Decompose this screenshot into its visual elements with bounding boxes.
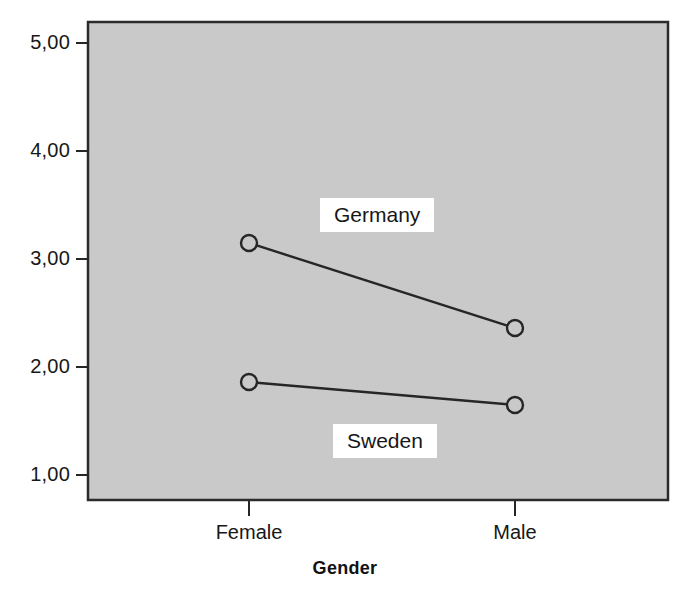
line-chart-figure: 5,00 4,00 3,00 2,00 1,00 Female Male Gen… [0,0,690,598]
series-germany-point-male [507,320,523,336]
y-tick-label-5: 5,00 [0,31,70,54]
y-tick-label-2: 2,00 [0,355,70,378]
y-tick-label-3: 3,00 [0,247,70,270]
series-sweden-point-male [507,397,523,413]
plot-canvas [0,0,690,598]
series-germany-point-female [241,235,257,251]
series-label-germany: Germany [320,198,434,232]
series-sweden-point-female [241,374,257,390]
y-tick-label-1: 1,00 [0,463,70,486]
x-axis-ticks [249,501,515,516]
x-axis-title: Gender [0,558,690,579]
x-tick-label-female: Female [169,521,329,544]
x-tick-label-male: Male [435,521,595,544]
series-label-sweden: Sweden [333,424,437,458]
y-tick-label-4: 4,00 [0,139,70,162]
